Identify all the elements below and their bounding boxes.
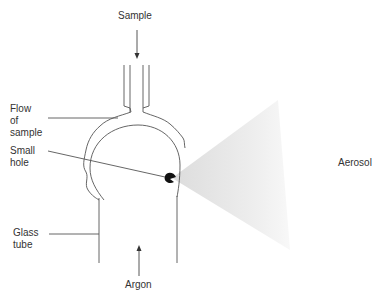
nebulizer-diagram	[0, 0, 390, 303]
outer-bulb-wall-right	[143, 112, 185, 148]
label-flow-of-sample-3: sample	[10, 127, 42, 139]
aerosol-spray	[172, 100, 290, 250]
sample-inlet-capillary	[124, 65, 149, 112]
label-flow-of-sample-1: Flow	[10, 103, 31, 115]
label-small-hole-1: Small	[10, 145, 35, 157]
label-flow-of-sample-2: of	[10, 115, 18, 127]
leader-small-hole	[48, 151, 165, 177]
label-glass-tube-2: tube	[13, 239, 32, 251]
label-argon: Argon	[125, 279, 152, 291]
label-small-hole-2: hole	[10, 157, 29, 169]
label-sample: Sample	[118, 10, 152, 22]
outer-bulb-wall	[84, 112, 131, 200]
argon-arrow	[137, 245, 142, 276]
label-glass-tube-1: Glass	[13, 227, 39, 239]
label-aerosol: Aerosol	[338, 157, 372, 169]
sample-arrow	[135, 30, 140, 59]
inner-bulb	[90, 125, 180, 200]
